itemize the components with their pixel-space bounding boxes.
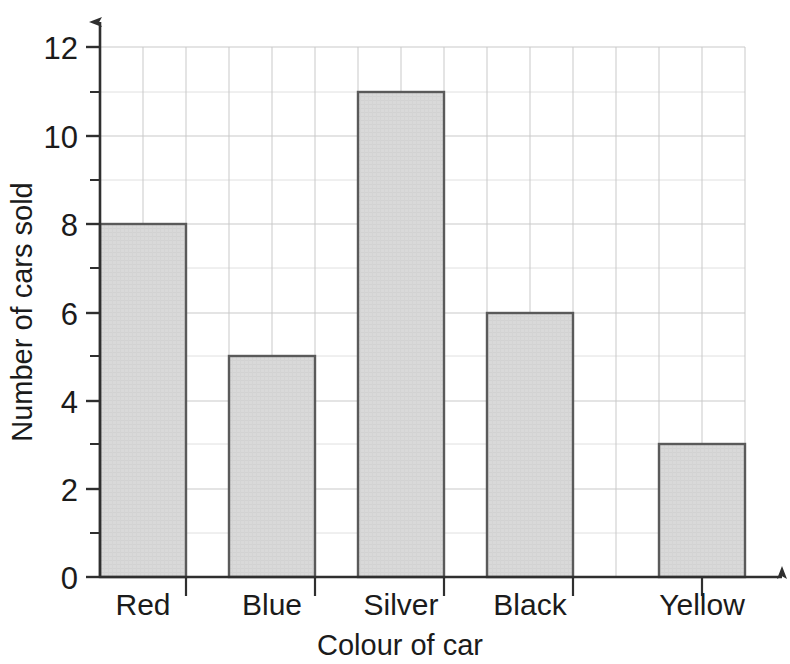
y-tick-label-6: 6 xyxy=(61,297,78,332)
x-category-label-yellow: Yellow xyxy=(659,588,745,621)
y-tick-label-2: 2 xyxy=(61,473,78,508)
x-axis-title: Colour of car xyxy=(317,629,483,661)
y-axis-title: Number of cars sold xyxy=(6,182,38,442)
bar-silver[interactable] xyxy=(358,92,444,577)
x-category-label-red: Red xyxy=(115,588,170,621)
y-tick-label-0: 0 xyxy=(61,561,78,596)
y-tick-label-10: 10 xyxy=(44,120,78,155)
x-category-label-silver: Silver xyxy=(363,588,438,621)
bar-chart-figure: 0 2 4 6 8 10 12 Red Blue Silver Black Ye… xyxy=(0,0,790,664)
bar-red[interactable] xyxy=(100,224,186,577)
x-category-label-blue: Blue xyxy=(242,588,302,621)
y-tick-label-12: 12 xyxy=(44,31,78,66)
bar-blue[interactable] xyxy=(229,356,315,577)
bar-yellow[interactable] xyxy=(659,444,745,577)
chart-canvas: 0 2 4 6 8 10 12 Red Blue Silver Black Ye… xyxy=(0,0,790,664)
x-category-label-black: Black xyxy=(493,588,567,621)
y-tick-label-4: 4 xyxy=(61,385,78,420)
y-tick-label-8: 8 xyxy=(61,208,78,243)
bar-black[interactable] xyxy=(487,313,573,577)
